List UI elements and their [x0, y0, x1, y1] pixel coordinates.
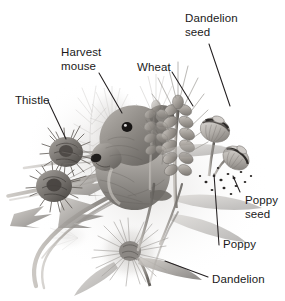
nature-illustration-figure: Dandelion seed Harvest mouse Wheat Thist…: [0, 0, 285, 301]
label-poppy-seed: Poppy seed: [245, 194, 278, 221]
label-harvest-mouse: Harvest mouse: [61, 46, 101, 73]
illustration-artwork: [0, 0, 285, 301]
label-dandelion-seed: Dandelion seed: [185, 12, 238, 39]
label-thistle: Thistle: [15, 94, 50, 108]
label-poppy: Poppy: [223, 238, 256, 252]
label-dandelion: Dandelion: [212, 273, 265, 287]
label-wheat: Wheat: [137, 61, 171, 75]
